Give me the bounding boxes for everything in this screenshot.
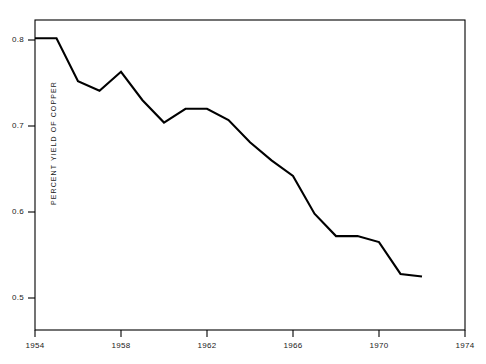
y-tick-label-0: 0.8 bbox=[4, 35, 24, 44]
line-chart-plot bbox=[0, 0, 486, 364]
y-tick-label-3: 0.5 bbox=[4, 293, 24, 302]
y-axis-title: PERCENT YIELD OF COPPER bbox=[50, 81, 57, 205]
x-tick-label-1962: 1962 bbox=[187, 341, 227, 350]
x-axis-ticks bbox=[35, 330, 465, 337]
y-tick-label-1: 0.7 bbox=[4, 121, 24, 130]
y-tick-label-2: 0.6 bbox=[4, 207, 24, 216]
x-tick-label-1954: 1954 bbox=[15, 341, 55, 350]
data-series-line bbox=[35, 38, 422, 276]
x-tick-label-1970: 1970 bbox=[359, 341, 399, 350]
x-tick-label-1974: 1974 bbox=[445, 341, 485, 350]
y-axis-ticks bbox=[28, 40, 35, 298]
x-tick-label-1966: 1966 bbox=[273, 341, 313, 350]
plot-frame bbox=[35, 20, 465, 330]
chart-container: 0.8 0.7 0.6 0.5 1954 1958 1962 1966 1970… bbox=[0, 0, 486, 364]
x-tick-label-1958: 1958 bbox=[101, 341, 141, 350]
